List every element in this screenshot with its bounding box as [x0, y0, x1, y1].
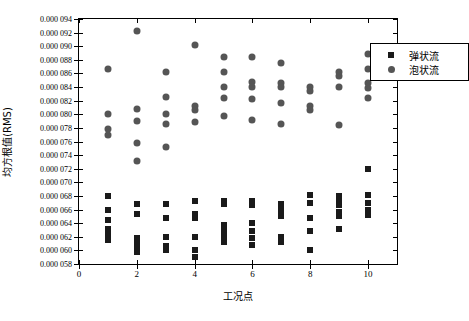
data-point — [307, 215, 313, 221]
data-point — [162, 143, 169, 150]
y-tick-label: 0.000 062 — [40, 232, 72, 241]
data-point — [365, 85, 372, 92]
data-point — [221, 239, 227, 245]
data-point — [307, 228, 313, 234]
data-point — [105, 207, 111, 213]
data-point — [162, 93, 169, 100]
data-point — [249, 54, 256, 61]
data-point — [220, 112, 227, 119]
data-point — [249, 202, 255, 208]
data-point — [307, 247, 313, 253]
data-point — [220, 69, 227, 76]
y-tick-label: 0.000 058 — [40, 260, 72, 269]
data-point — [163, 247, 169, 253]
data-point — [105, 193, 111, 199]
data-point — [104, 66, 111, 73]
y-tick-label: 0.000 094 — [40, 15, 72, 24]
data-point — [162, 120, 169, 127]
y-tick-label: 0.000 078 — [40, 123, 72, 132]
data-point — [307, 88, 314, 95]
data-point — [133, 105, 140, 112]
x-tick-label: 4 — [192, 269, 197, 279]
data-point — [249, 116, 256, 123]
x-tick-label: 8 — [308, 269, 313, 279]
y-tick-label: 0.000 068 — [40, 191, 72, 200]
legend-item-slug-flow: 弹状流 — [376, 48, 463, 62]
data-point — [191, 119, 198, 126]
data-point — [365, 212, 371, 218]
data-point — [278, 213, 284, 219]
y-tick-label: 0.000 060 — [40, 246, 72, 255]
data-point — [278, 207, 284, 213]
data-point — [249, 242, 255, 248]
data-point — [249, 220, 255, 226]
data-point — [191, 107, 198, 114]
x-axis-title: 工况点 — [223, 288, 253, 303]
data-point — [336, 226, 342, 232]
legend-label-bubble-flow: 泡状流 — [406, 62, 439, 77]
data-point — [307, 107, 314, 114]
data-point — [307, 200, 313, 206]
y-tick-label: 0.000 070 — [40, 178, 72, 187]
x-tick-label: 0 — [77, 269, 82, 279]
data-point — [134, 211, 140, 217]
data-point — [162, 111, 169, 118]
data-point — [192, 198, 198, 204]
data-point — [278, 59, 285, 66]
legend: 弹状流 泡状流 — [370, 43, 469, 81]
circle-marker-icon — [376, 66, 406, 73]
data-point — [133, 118, 140, 125]
data-point — [336, 122, 343, 129]
data-point — [336, 73, 343, 80]
y-tick-label: 0.000 064 — [40, 219, 72, 228]
data-point — [336, 202, 342, 208]
data-point — [278, 84, 285, 91]
data-point — [365, 166, 371, 172]
data-point — [365, 200, 371, 206]
data-point — [221, 201, 227, 207]
data-point — [191, 41, 198, 48]
data-point — [104, 131, 111, 138]
y-tick-label: 0.000 092 — [40, 28, 72, 37]
data-point — [104, 111, 111, 118]
data-point — [278, 120, 285, 127]
data-point — [192, 234, 198, 240]
data-point — [249, 96, 256, 103]
data-point — [220, 84, 227, 91]
legend-label-slug-flow: 弹状流 — [406, 48, 439, 63]
data-point — [163, 215, 169, 221]
data-point — [249, 235, 255, 241]
data-point — [192, 247, 198, 253]
y-tick-label: 0.000 090 — [40, 42, 72, 51]
plot-area: 0.000 0580.000 0600.000 0620.000 0640.00… — [78, 18, 398, 265]
y-axis-title: 均方根值(RMS) — [0, 107, 14, 177]
data-point — [163, 201, 169, 207]
data-point — [278, 100, 285, 107]
y-tick-label: 0.000 080 — [40, 110, 72, 119]
data-point — [162, 69, 169, 76]
square-marker-icon — [376, 52, 406, 58]
data-point — [134, 201, 140, 207]
y-tick-right — [393, 264, 397, 265]
y-tick-label: 0.000 074 — [40, 151, 72, 160]
legend-item-bubble-flow: 泡状流 — [376, 62, 463, 76]
data-point — [105, 217, 111, 223]
y-tick-label: 0.000 066 — [40, 205, 72, 214]
y-tick-label: 0.000 088 — [40, 55, 72, 64]
data-point — [134, 249, 140, 255]
data-point — [249, 84, 256, 91]
y-tick-label: 0.000 076 — [40, 137, 72, 146]
data-point — [163, 234, 169, 240]
data-point — [133, 157, 140, 164]
x-tick-label: 6 — [250, 269, 255, 279]
data-point — [336, 84, 343, 91]
data-point — [192, 254, 198, 260]
data-point — [105, 237, 111, 243]
y-tick-label: 0.000 086 — [40, 69, 72, 78]
data-point — [221, 222, 227, 228]
y-tick-label: 0.000 084 — [40, 83, 72, 92]
y-tick-label: 0.000 072 — [40, 164, 72, 173]
x-tick-label: 2 — [135, 269, 140, 279]
data-point — [220, 54, 227, 61]
